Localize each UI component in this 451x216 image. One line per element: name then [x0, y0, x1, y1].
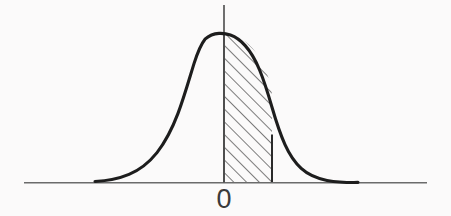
shaded-region-group: [224, 34, 272, 182]
distribution-chart-canvas: 0: [0, 0, 451, 216]
x-axis-origin-label: 0: [216, 184, 231, 214]
normal-distribution-figure: 0: [0, 0, 451, 216]
shaded-region-hatch-fill: [224, 34, 272, 182]
